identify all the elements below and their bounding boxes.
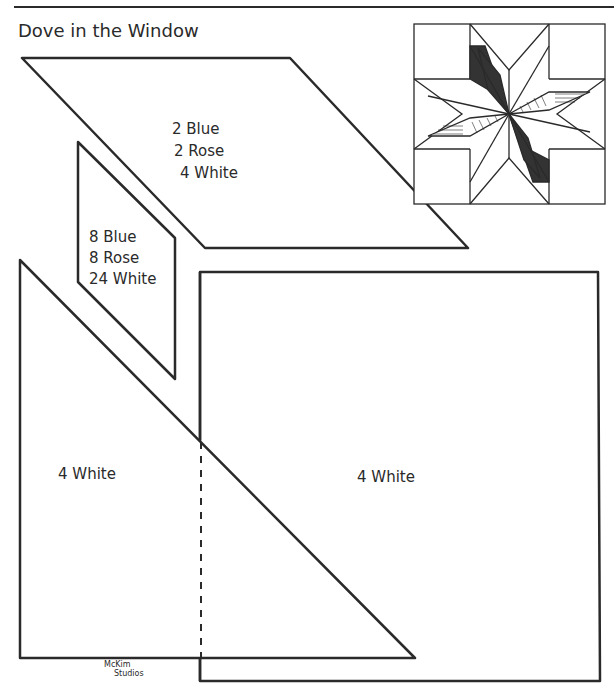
studio-credit: McKim Studios	[104, 660, 144, 678]
credit-line2: Studios	[104, 669, 144, 678]
parallelogram-piece-label: 8 Blue 8 Rose 24 White	[89, 227, 156, 290]
page-title: Dove in the Window	[18, 20, 199, 41]
parallelogram-line-rose: 8 Rose	[89, 248, 156, 269]
triangle-piece-label: 4 White	[58, 465, 116, 483]
triangle-piece	[20, 260, 415, 658]
diamond-piece-label: 2 Blue 2 Rose 4 White	[172, 118, 238, 184]
quilt-block-illustration	[414, 24, 605, 204]
square-piece-label: 4 White	[357, 468, 415, 486]
parallelogram-line-blue: 8 Blue	[89, 227, 156, 248]
diamond-line-blue: 2 Blue	[172, 118, 238, 140]
credit-line1: McKim	[104, 660, 144, 669]
pattern-sheet	[0, 0, 614, 691]
diamond-line-white: 4 White	[172, 162, 238, 184]
diamond-line-rose: 2 Rose	[172, 140, 238, 162]
parallelogram-line-white: 24 White	[89, 269, 156, 290]
